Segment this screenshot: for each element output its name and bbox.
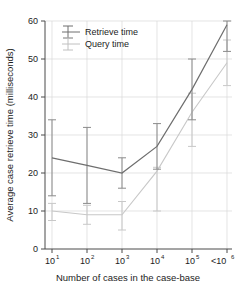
y-axis-ticks [41,21,45,249]
x-tick-base-2: 10 [115,256,125,266]
x-tick-exp-3: 4 [161,254,165,260]
x-tick-label-4: 10 5 [185,254,200,266]
legend-label-retrieve-time: Retrieve time [85,27,138,37]
x-tick-label-5: <10 6 [211,254,235,266]
x-tick-exp-4: 5 [196,254,200,260]
x-tick-base-0: 10 [45,256,55,266]
x-axis-ticks [52,249,227,253]
x-tick-base-1: 10 [80,256,90,266]
chart-figure: 0 10 20 30 40 50 60 10 1 10 2 10 3 10 4 … [0,0,237,290]
y-tick-label-60: 60 [28,16,38,26]
y-tick-label-0: 0 [33,244,38,254]
y-tick-label-20: 20 [28,168,38,178]
line-chart: 0 10 20 30 40 50 60 10 1 10 2 10 3 10 4 … [0,0,237,290]
y-tick-label-10: 10 [28,206,38,216]
x-tick-label-0: 10 1 [45,254,60,266]
x-tick-exp-2: 3 [126,254,130,260]
x-tick-label-1: 10 2 [80,254,95,266]
y-tick-label-50: 50 [28,54,38,64]
y-tick-label-30: 30 [28,130,38,140]
legend-label-query-time: Query time [85,39,129,49]
x-tick-exp-1: 2 [91,254,95,260]
x-axis-title: Number of cases in the case-base [56,272,200,283]
y-tick-label-40: 40 [28,92,38,102]
x-tick-exp-5: 6 [231,254,235,260]
x-tick-base-5: <10 [211,256,226,266]
x-tick-exp-0: 1 [56,254,60,260]
x-tick-base-4: 10 [185,256,195,266]
x-tick-label-3: 10 4 [150,254,165,266]
y-axis-title: Average case retrieve time (milliseconds… [4,48,15,222]
x-tick-base-3: 10 [150,256,160,266]
x-tick-label-2: 10 3 [115,254,130,266]
